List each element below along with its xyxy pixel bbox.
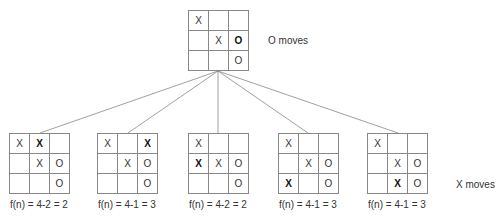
children.3-cell-1: [299, 134, 319, 154]
children.3-cell-3: [279, 154, 299, 174]
root-cell-4: X: [209, 31, 229, 51]
children.1-cell-5: O: [138, 154, 158, 174]
children.3-cell-4: X: [299, 154, 319, 174]
children.4-cell-4: X: [388, 154, 408, 174]
children.1-cell-7: [118, 174, 138, 194]
children.2-cell-7: [209, 174, 229, 194]
children.2-cell-6: [189, 174, 209, 194]
o-moves-label: O moves: [268, 35, 308, 46]
edge-2: [128, 71, 218, 133]
caption-4: f(n) = 4-1 = 3: [279, 199, 337, 210]
child-board-4: XXOXO: [278, 133, 339, 194]
root-cell-1: [209, 11, 229, 31]
caption-2: f(n) = 4-1 = 3: [98, 199, 156, 210]
children.4-cell-1: [388, 134, 408, 154]
children.0-cell-6: [10, 174, 30, 194]
child-board-5: XXOXO: [367, 133, 428, 194]
root-cell-0: X: [189, 11, 209, 31]
edge-4: [218, 71, 308, 133]
child-board-3: XXXOO: [188, 133, 249, 194]
children.1-cell-2: X: [138, 134, 158, 154]
children.4-cell-3: [368, 154, 388, 174]
children.4-cell-8: O: [408, 174, 428, 194]
child-board-2: XXXOO: [97, 133, 158, 194]
root-board: XXOO: [188, 10, 249, 71]
children.0-cell-7: [30, 174, 50, 194]
children.4-cell-5: O: [408, 154, 428, 174]
children.1-cell-1: [118, 134, 138, 154]
root-cell-8: O: [229, 51, 249, 71]
children.2-cell-5: O: [229, 154, 249, 174]
children.0-cell-2: [50, 134, 70, 154]
caption-1: f(n) = 4-2 = 2: [10, 199, 68, 210]
children.2-cell-4: X: [209, 154, 229, 174]
children.0-cell-3: [10, 154, 30, 174]
caption-3: f(n) = 4-2 = 2: [189, 199, 247, 210]
children.4-cell-0: X: [368, 134, 388, 154]
children.1-cell-8: O: [138, 174, 158, 194]
children.3-cell-8: O: [319, 174, 339, 194]
children.3-cell-0: X: [279, 134, 299, 154]
children.3-cell-6: X: [279, 174, 299, 194]
children.2-cell-2: [229, 134, 249, 154]
root-cell-6: [189, 51, 209, 71]
children.2-cell-1: [209, 134, 229, 154]
child-board-1: XXXOO: [9, 133, 70, 194]
children.0-cell-8: O: [50, 174, 70, 194]
root-cell-2: [229, 11, 249, 31]
children.1-cell-0: X: [98, 134, 118, 154]
children.2-cell-3: X: [189, 154, 209, 174]
children.4-cell-2: [408, 134, 428, 154]
children.0-cell-5: O: [50, 154, 70, 174]
children.3-cell-7: [299, 174, 319, 194]
root-cell-5: O: [229, 31, 249, 51]
children.0-cell-1: X: [30, 134, 50, 154]
children.4-cell-7: X: [388, 174, 408, 194]
root-cell-7: [209, 51, 229, 71]
x-moves-label: X moves: [456, 179, 495, 190]
root-cell-3: [189, 31, 209, 51]
children.4-cell-6: [368, 174, 388, 194]
children.1-cell-6: [98, 174, 118, 194]
children.3-cell-5: O: [319, 154, 339, 174]
children.1-cell-3: [98, 154, 118, 174]
children.0-cell-0: X: [10, 134, 30, 154]
children.1-cell-4: X: [118, 154, 138, 174]
caption-5: f(n) = 4-1 = 3: [368, 199, 426, 210]
edge-5: [218, 71, 398, 133]
children.2-cell-0: X: [189, 134, 209, 154]
children.0-cell-4: X: [30, 154, 50, 174]
edge-1: [40, 71, 218, 133]
children.3-cell-2: [319, 134, 339, 154]
children.2-cell-8: O: [229, 174, 249, 194]
